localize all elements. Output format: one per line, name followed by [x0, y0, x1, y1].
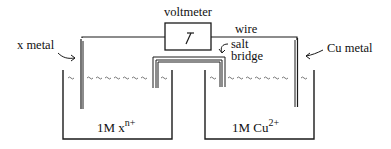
right-solution-main: 1M Cu [232, 120, 269, 135]
cu-metal-arrow-icon [306, 50, 323, 59]
right-solution-label: 1M Cu2+ [232, 117, 279, 135]
right-solution-charge: 2+ [268, 117, 279, 128]
solution-surface [68, 77, 307, 79]
x-metal-arrow-icon [58, 53, 75, 61]
left-solution-charge: n+ [125, 117, 136, 128]
salt-bridge [153, 57, 225, 88]
salt-bridge-label-line2: bridge [231, 49, 263, 63]
left-solution-label: 1M xn+ [97, 117, 136, 135]
x-metal-electrode [81, 39, 83, 109]
wire-label: wire [235, 22, 258, 36]
voltmeter [165, 23, 211, 50]
voltmeter-label: voltmeter [164, 5, 213, 19]
left-solution-main: 1M x [97, 120, 125, 135]
salt-bridge-arrow-icon [219, 44, 228, 53]
cu-metal-electrode [295, 38, 298, 107]
cu-metal-label: Cu metal [327, 41, 373, 55]
electrochemical-cell-diagram: voltmeter wire salt bridge x metal Cu me… [0, 0, 391, 149]
x-metal-label: x metal [17, 38, 55, 52]
